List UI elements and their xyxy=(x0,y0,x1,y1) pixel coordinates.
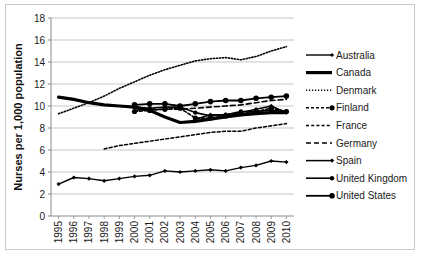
x-axis-tick-label: 1997 xyxy=(83,221,94,244)
legend-swatch-marker xyxy=(329,105,334,110)
x-axis-tick-label: 2008 xyxy=(251,221,262,244)
legend-swatch-marker xyxy=(329,193,335,199)
y-axis-tick-label: 14 xyxy=(34,57,46,68)
line-chart: 024681012141618 199519961997199819992000… xyxy=(6,5,414,249)
data-series-group xyxy=(56,47,289,187)
x-axis-tick-label: 2000 xyxy=(129,221,140,244)
legend-item-united-states[interactable]: United States xyxy=(306,190,396,201)
series-marker xyxy=(72,175,76,179)
legend-label: Finland xyxy=(336,102,369,113)
x-axis-tick-label: 2007 xyxy=(235,221,246,244)
y-axis-tick-label: 18 xyxy=(34,13,46,24)
legend-item-denmark[interactable]: Denmark xyxy=(306,85,378,96)
chart-container: 024681012141618 199519961997199819992000… xyxy=(5,4,415,250)
x-axis-tick-label: 2004 xyxy=(190,221,201,244)
series-marker xyxy=(117,177,121,181)
legend-item-germany[interactable]: Germany xyxy=(306,138,377,149)
y-axis-tick-label: 8 xyxy=(39,123,45,134)
series-marker xyxy=(239,166,243,170)
x-axis-tick-label: 2010 xyxy=(281,221,292,244)
series-marker xyxy=(132,174,136,178)
series-marker xyxy=(56,182,60,186)
x-axis-tick-label: 2001 xyxy=(144,221,155,244)
series-line xyxy=(59,161,287,184)
x-axis-tick-label: 2006 xyxy=(220,221,231,244)
chart-legend: AustraliaCanadaDenmarkFinlandFranceGerma… xyxy=(306,50,407,202)
y-axis-tick-label: 4 xyxy=(39,167,45,178)
series-marker xyxy=(239,109,243,113)
x-axis-tick-label: 1998 xyxy=(99,221,110,244)
series-france xyxy=(104,124,286,149)
legend-item-united-kingdom[interactable]: United Kingdom xyxy=(306,173,407,184)
legend-label: Canada xyxy=(336,67,371,78)
series-marker xyxy=(223,113,227,117)
legend-item-finland[interactable]: Finland xyxy=(306,102,369,113)
series-marker xyxy=(238,98,244,104)
legend-swatch-marker xyxy=(330,176,334,180)
series-marker xyxy=(284,109,288,113)
series-marker xyxy=(284,93,290,99)
x-axis-tick-label: 2002 xyxy=(159,221,170,244)
series-marker xyxy=(208,99,214,105)
y-axis-tick-label: 6 xyxy=(39,145,45,156)
series-marker xyxy=(177,103,183,109)
series-marker xyxy=(269,108,273,112)
x-axis-tick-label: 1996 xyxy=(68,221,79,244)
legend-swatch-marker xyxy=(330,53,334,57)
series-marker xyxy=(254,163,258,167)
x-axis-tick-label: 2005 xyxy=(205,221,216,244)
series-marker xyxy=(223,98,229,104)
series-marker xyxy=(148,106,152,110)
y-axis-tick-label: 2 xyxy=(39,189,45,200)
y-axis-tick-label: 12 xyxy=(34,79,46,90)
y-axis-label: Nurses per 1,000 population xyxy=(12,43,24,191)
y-axis-tick-label: 0 xyxy=(39,211,45,222)
series-marker xyxy=(208,114,212,118)
series-marker xyxy=(253,96,259,102)
series-marker xyxy=(269,159,273,163)
series-marker xyxy=(147,101,153,107)
legend-label: Germany xyxy=(336,138,377,149)
legend-item-france[interactable]: France xyxy=(306,120,368,131)
y-axis-tick-label: 10 xyxy=(34,101,46,112)
x-axis-tick-label: 1995 xyxy=(53,221,64,244)
series-line xyxy=(104,124,286,149)
series-marker xyxy=(132,102,138,108)
legend-item-australia[interactable]: Australia xyxy=(306,50,375,61)
series-marker xyxy=(193,110,197,114)
series-marker xyxy=(162,101,168,107)
legend-label: Spain xyxy=(336,155,362,166)
x-axis-tick-label: 2003 xyxy=(175,221,186,244)
series-marker xyxy=(148,173,152,177)
series-marker xyxy=(254,109,258,113)
legend-label: Denmark xyxy=(336,85,378,96)
legend-label: United States xyxy=(336,190,396,201)
series-marker xyxy=(102,179,106,183)
legend-label: Australia xyxy=(336,50,375,61)
legend-item-spain[interactable]: Spain xyxy=(306,155,362,166)
y-axis-title: Nurses per 1,000 population xyxy=(12,43,24,191)
series-marker xyxy=(208,168,212,172)
x-axis-tick-labels: 1995199619971998199920002001200220032004… xyxy=(53,221,292,244)
series-marker xyxy=(284,160,288,164)
series-marker xyxy=(192,101,198,107)
x-axis-tick-label: 2009 xyxy=(266,221,277,244)
legend-item-canada[interactable]: Canada xyxy=(306,67,371,78)
y-axis-tick-labels: 024681012141618 xyxy=(34,13,46,222)
x-axis-tick-label: 1999 xyxy=(114,221,125,244)
y-axis-tick-label: 16 xyxy=(34,35,46,46)
legend-label: United Kingdom xyxy=(336,173,407,184)
series-marker xyxy=(178,170,182,174)
legend-label: France xyxy=(336,120,368,131)
series-marker xyxy=(87,177,91,181)
gridlines xyxy=(51,18,294,194)
legend-swatch-marker xyxy=(330,158,334,162)
series-australia xyxy=(56,159,288,186)
series-marker xyxy=(268,94,274,100)
